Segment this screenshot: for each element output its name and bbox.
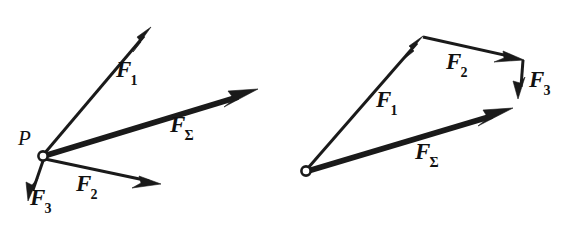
label-left-fsum: FΣ <box>170 113 195 139</box>
label-right-f3: F3 <box>529 68 552 94</box>
left-vector-f1 <box>44 27 151 154</box>
label-right-f2: F2 <box>446 50 469 76</box>
right-origin-point <box>301 166 310 175</box>
left-vector-f2 <box>45 159 161 188</box>
right-diagram-group <box>301 36 525 176</box>
label-right-fsum-sub: Σ <box>430 155 439 170</box>
label-left-f1-sub: 1 <box>131 73 138 88</box>
label-right-f1: F1 <box>376 88 399 114</box>
label-right-f1-base: F <box>376 87 392 112</box>
right-vector-f3 <box>513 60 525 99</box>
left-origin-point <box>38 151 47 160</box>
label-left-f2-base: F <box>76 171 92 196</box>
right-vector-f1 <box>308 36 423 168</box>
label-right-f3-sub: 3 <box>544 83 551 98</box>
label-left-f2: F2 <box>76 172 99 198</box>
label-right-f3-base: F <box>529 67 545 92</box>
label-left-f3-base: F <box>30 185 46 210</box>
label-right-f2-base: F <box>446 49 462 74</box>
label-left-fsum-base: F <box>170 112 186 137</box>
label-left-f3: F3 <box>30 186 53 212</box>
label-right-fsum: FΣ <box>415 140 440 166</box>
left-diagram-group <box>26 27 258 201</box>
label-point-p: P <box>18 128 31 149</box>
label-left-fsum-sub: Σ <box>185 128 194 143</box>
label-left-f3-sub: 3 <box>45 201 52 216</box>
right-vector-fsum <box>308 108 513 171</box>
label-left-f2-sub: 2 <box>91 187 98 202</box>
label-left-f1-base: F <box>116 57 132 82</box>
left-vector-fsum <box>44 89 258 156</box>
label-right-f1-sub: 1 <box>391 103 398 118</box>
label-right-fsum-base: F <box>415 139 431 164</box>
label-right-f2-sub: 2 <box>461 65 468 80</box>
label-point-p-text: P <box>18 126 31 150</box>
figure-root: P F1 FΣ F2 F3 F1 F2 F3 FΣ <box>0 0 573 230</box>
right-vector-f2 <box>423 37 524 62</box>
label-left-f1: F1 <box>116 58 139 84</box>
